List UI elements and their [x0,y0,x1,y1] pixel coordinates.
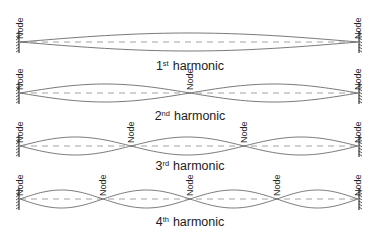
wave-envelope-upper [20,137,358,146]
node-label: Node [272,174,282,196]
node-label: Node [353,174,363,196]
harmonic-row-1: NodeNode1stharmonic [15,17,363,73]
node-label: Node [185,174,195,196]
node-label: Node [239,121,249,143]
wave-envelope-upper [20,33,358,42]
wave-envelope-lower [20,199,358,208]
harmonic-label: 3rdharmonic [155,159,224,173]
harmonic-row-2: NodeNodeNode2ndharmonic [15,68,363,123]
harmonic-label: 4thharmonic [156,215,225,229]
harmonic-row-4: NodeNodeNodeNodeNode4thharmonic [15,174,363,229]
standing-wave-diagram: NodeNode1stharmonicNodeNodeNode2ndharmon… [0,0,378,241]
node-label: Node [353,68,363,90]
node-label: Node [98,174,108,196]
node-label: Node [353,17,363,39]
node-label: Node [15,17,25,39]
wave-envelope-lower [20,93,358,102]
wave-envelope-lower [20,42,358,51]
node-label: Node [126,121,136,143]
node-label: Node [15,68,25,90]
node-label: Node [15,121,25,143]
harmonic-label: 2ndharmonic [155,109,226,123]
harmonic-row-3: NodeNodeNodeNode3rdharmonic [15,121,363,173]
node-label: Node [353,121,363,143]
node-label: Node [15,174,25,196]
node-label: Node [185,68,195,90]
wave-envelope-lower [20,146,358,155]
